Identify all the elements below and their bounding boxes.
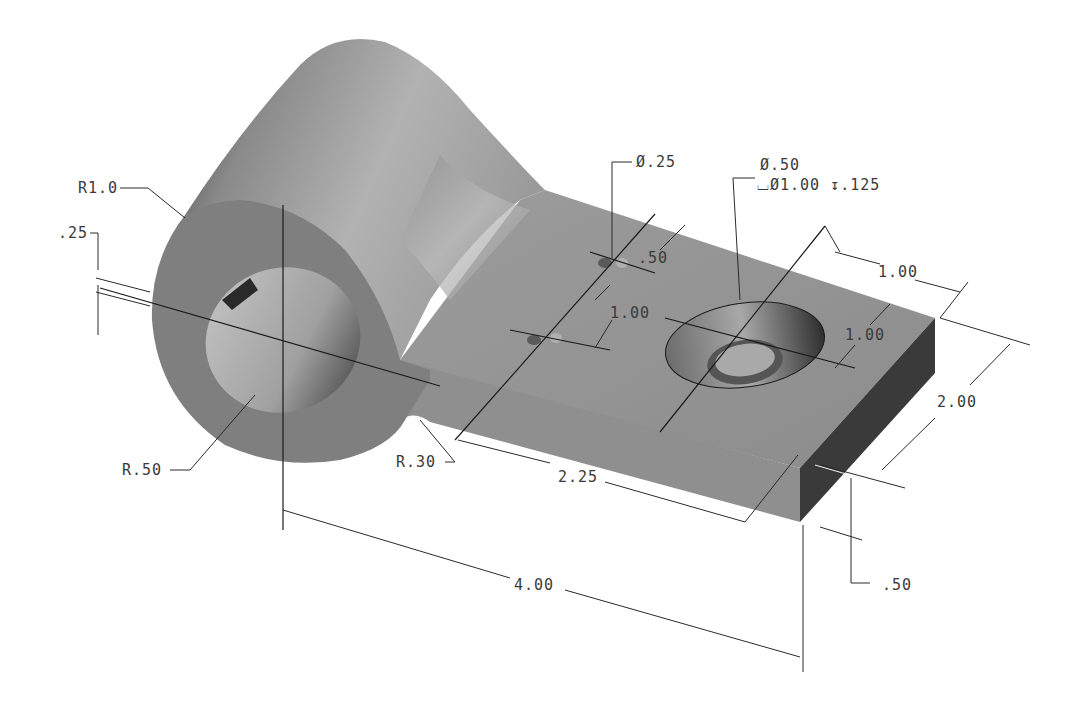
label-slot-offset: .25 (58, 224, 88, 242)
label-hole-radius: R.50 (122, 461, 162, 479)
label-cbore-from-edge: 1.00 (845, 326, 885, 344)
label-arm-thickness: .50 (882, 576, 912, 594)
label-fillet-radius: R.30 (396, 453, 436, 471)
label-cbore-spec: ⌴Ø1.00 ↧.125 (757, 176, 880, 194)
label-cbore-hole-dia: Ø.50 (760, 156, 800, 174)
label-overall-length: 4.00 (514, 576, 554, 594)
label-small-hole-spacing: .50 (638, 249, 668, 267)
label-arm-width: 2.00 (937, 393, 977, 411)
drawing-canvas: R1.0 .25 R.50 R.30 Ø.25 Ø.50 ⌴Ø1.00 ↧.12… (0, 0, 1090, 717)
part-body (152, 39, 935, 522)
label-small-hole-pitch: 1.00 (610, 304, 650, 322)
label-hole-to-hole: 2.25 (558, 468, 598, 486)
label-small-hole-dia: Ø.25 (636, 153, 676, 171)
label-boss-radius: R1.0 (78, 179, 118, 197)
label-cbore-from-end: 1.00 (878, 263, 918, 281)
